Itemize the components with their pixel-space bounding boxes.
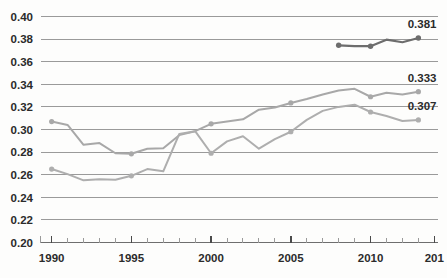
y-tick-label: 0.32 (11, 101, 33, 113)
data-point-marker (368, 94, 373, 99)
data-point-marker (288, 100, 293, 105)
y-tick-label: 0.34 (11, 79, 34, 91)
data-point-marker (416, 89, 421, 94)
y-tick-label: 0.40 (11, 11, 33, 23)
y-tick-label: 0.30 (11, 124, 33, 136)
y-tick-label: 0.36 (11, 56, 33, 68)
data-point-marker (49, 166, 54, 171)
series-end-label-series-grey-upper: 0.333 (408, 72, 437, 84)
data-point-marker (209, 121, 214, 126)
x-tick-label: 2000 (198, 252, 224, 264)
chart-container: 0.400.380.360.340.320.300.280.260.240.22… (0, 0, 447, 278)
x-tick-label: 2010 (358, 252, 384, 264)
data-point-marker (336, 43, 341, 48)
y-tick-label: 0.28 (11, 146, 34, 158)
data-point-marker (416, 35, 421, 40)
y-tick-label: 0.38 (11, 33, 34, 45)
data-point-marker (49, 119, 54, 124)
data-point-marker (416, 117, 421, 122)
y-tick-label: 0.26 (11, 169, 33, 181)
data-point-marker (368, 109, 373, 114)
data-point-marker (368, 44, 373, 49)
x-tick-label: 201 (425, 252, 445, 264)
data-point-marker (209, 151, 214, 156)
y-tick-label: 0.24 (11, 192, 34, 204)
data-point-marker (288, 129, 293, 134)
series-end-label-series-grey-lower: 0.307 (408, 100, 437, 112)
y-tick-label: 0.20 (11, 237, 33, 249)
y-tick-label: 0.22 (11, 214, 33, 226)
data-point-marker (129, 173, 134, 178)
x-tick-label: 1990 (39, 252, 65, 264)
x-tick-label: 2005 (278, 252, 304, 264)
data-point-marker (129, 151, 134, 156)
line-chart: 0.400.380.360.340.320.300.280.260.240.22… (0, 0, 447, 278)
x-tick-label: 1995 (119, 252, 145, 264)
series-end-label-series-dark: 0.381 (408, 18, 437, 30)
